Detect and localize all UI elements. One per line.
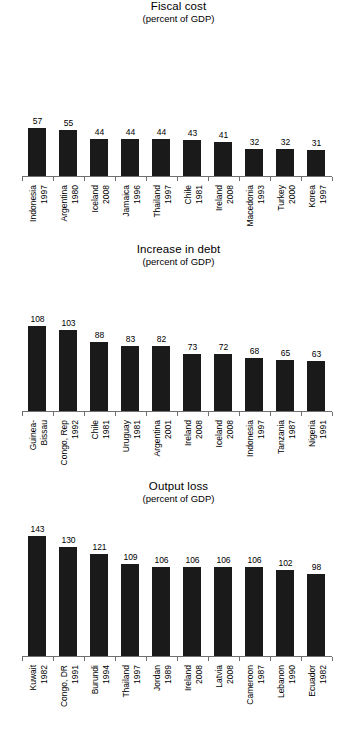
crisis-year: 1981 <box>131 420 142 452</box>
chart-title: Fiscal cost <box>0 0 357 13</box>
country-name: Kuwait <box>27 665 38 691</box>
crisis-year: 1997 <box>255 420 266 457</box>
bar-group[interactable]: 106 <box>177 504 208 656</box>
crisis-year: 2008 <box>224 665 235 688</box>
bar-group[interactable]: 106 <box>146 504 177 656</box>
bar-value-label: 130 <box>53 535 84 545</box>
bar-group[interactable]: 68 <box>239 267 270 411</box>
bar-group[interactable]: 106 <box>208 504 239 656</box>
crisis-year: 1996 <box>131 185 142 217</box>
country-name: Argentina <box>58 185 69 221</box>
axis-tick <box>177 412 178 416</box>
bar[interactable] <box>276 360 294 411</box>
bar[interactable] <box>121 346 139 411</box>
bar[interactable] <box>276 570 294 656</box>
bar-group[interactable]: 102 <box>270 504 301 656</box>
bar-group[interactable]: 98 <box>301 504 332 656</box>
country-name: Chile <box>182 185 193 204</box>
axis-tick <box>22 177 23 181</box>
country-name: Cameroon <box>244 665 255 705</box>
bar[interactable] <box>90 139 108 176</box>
bar-group[interactable]: 88 <box>84 267 115 411</box>
bar-group[interactable]: 73 <box>177 267 208 411</box>
bar-group[interactable]: 143 <box>22 504 53 656</box>
bar-group[interactable]: 44 <box>84 24 115 176</box>
bar-value-label: 44 <box>146 127 177 137</box>
bar[interactable] <box>59 130 77 176</box>
bar-group[interactable]: 57 <box>22 24 53 176</box>
country-name: Ireland <box>182 665 193 691</box>
crisis-year: 1987 <box>255 665 266 705</box>
bar-group[interactable]: 83 <box>115 267 146 411</box>
axis-tick <box>332 657 333 661</box>
bar[interactable] <box>90 554 108 656</box>
bar-group[interactable]: 109 <box>115 504 146 656</box>
bar-group[interactable]: 130 <box>53 504 84 656</box>
bar[interactable] <box>276 149 294 176</box>
bar[interactable] <box>183 354 201 411</box>
bar-value-label: 44 <box>115 127 146 137</box>
bar[interactable] <box>307 361 325 411</box>
bar[interactable] <box>28 536 46 656</box>
bar-group[interactable]: 32 <box>239 24 270 176</box>
bar-group[interactable]: 121 <box>84 504 115 656</box>
bar-series: 14313012110910610610610610298 <box>22 504 332 656</box>
bar[interactable] <box>59 547 77 656</box>
axis-tick <box>208 657 209 661</box>
country-name: Indonesia <box>27 185 38 222</box>
crisis-year: 2001 <box>162 420 173 456</box>
bar-group[interactable]: 31 <box>301 24 332 176</box>
x-axis-tick-label: Tanzania1987 <box>270 417 301 477</box>
bar[interactable] <box>307 150 325 176</box>
bar-group[interactable]: 82 <box>146 267 177 411</box>
bar[interactable] <box>152 567 170 656</box>
bar-group[interactable]: 41 <box>208 24 239 176</box>
axis-tick <box>53 657 54 661</box>
bar[interactable] <box>307 574 325 656</box>
axis-tick <box>270 657 271 661</box>
country-name: Iceland <box>213 420 224 447</box>
bar-group[interactable]: 72 <box>208 267 239 411</box>
axis-tick <box>208 177 209 181</box>
bar[interactable] <box>214 142 232 176</box>
bar[interactable] <box>28 128 46 176</box>
bar[interactable] <box>28 326 46 411</box>
bar-value-label: 31 <box>301 138 332 148</box>
country-name-cont: Bissau <box>38 420 49 450</box>
bar-group[interactable]: 65 <box>270 267 301 411</box>
bar-group[interactable]: 55 <box>53 24 84 176</box>
bar-group[interactable]: 63 <box>301 267 332 411</box>
bar[interactable] <box>183 140 201 176</box>
bar-group[interactable]: 44 <box>115 24 146 176</box>
bar[interactable] <box>245 567 263 656</box>
bar-group[interactable]: 43 <box>177 24 208 176</box>
axis-tick <box>177 177 178 181</box>
bar-group[interactable]: 108 <box>22 267 53 411</box>
bar[interactable] <box>152 139 170 176</box>
bar-group[interactable]: 32 <box>270 24 301 176</box>
bar[interactable] <box>214 354 232 411</box>
x-axis-tick-label: Nigeria1991 <box>301 417 332 477</box>
bar[interactable] <box>59 330 77 411</box>
axis-tick <box>22 412 23 416</box>
bar-group[interactable]: 106 <box>239 504 270 656</box>
bar-group[interactable]: 44 <box>146 24 177 176</box>
bar-value-label: 63 <box>301 349 332 359</box>
x-axis-tick-label: Iceland2008 <box>84 182 115 242</box>
bar-value-label: 106 <box>208 555 239 565</box>
bar[interactable] <box>245 358 263 411</box>
crisis-year: 2000 <box>286 185 297 211</box>
bar[interactable] <box>245 149 263 176</box>
crisis-year: 1992 <box>69 420 80 465</box>
bar[interactable] <box>121 139 139 176</box>
bar[interactable] <box>214 567 232 656</box>
axis-tick <box>270 412 271 416</box>
bar-group[interactable]: 103 <box>53 267 84 411</box>
country-name: Indonesia <box>244 420 255 457</box>
bar[interactable] <box>183 567 201 656</box>
bar[interactable] <box>121 564 139 656</box>
bar[interactable] <box>90 342 108 411</box>
bar[interactable] <box>152 346 170 411</box>
x-axis-tick-label: Jordan1989 <box>146 662 177 722</box>
x-axis-tick-label: Uruguay1981 <box>115 417 146 477</box>
